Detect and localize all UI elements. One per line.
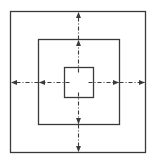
arrows-group	[12, 13, 145, 152]
concentric-squares-diagram	[0, 0, 155, 162]
